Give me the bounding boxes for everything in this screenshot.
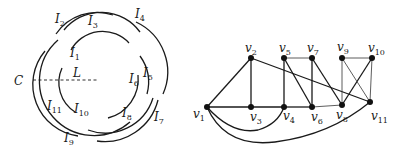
edge-v2-v11 (251, 58, 370, 102)
label-v8: v8 (336, 108, 348, 124)
edge-v1-v2 (207, 58, 251, 107)
label-I6: I6 (128, 72, 139, 88)
label-I7: I7 (153, 110, 164, 126)
arc-I8 (88, 98, 153, 133)
edge-v7-v8 (312, 58, 342, 105)
label-I9: I9 (63, 131, 74, 147)
vertex-labels: v1 v2 v3 v4 v5 v6 v7 v8 v9 v10 v11 (193, 40, 388, 126)
label-v10: v10 (368, 41, 385, 57)
label-v5: v5 (279, 41, 291, 57)
label-I1: I1 (69, 46, 80, 62)
vertex-v11 (367, 99, 373, 105)
label-v3: v3 (250, 110, 262, 126)
vertex-v1 (204, 104, 210, 110)
label-v11: v11 (371, 109, 388, 125)
edge-v10-v11 (370, 58, 372, 102)
label-I2: I2 (54, 12, 65, 28)
arc-I11 (33, 51, 78, 136)
edge-v5-v6 (284, 58, 312, 107)
label-I3: I3 (87, 14, 98, 30)
arc-left-2 (39, 40, 130, 136)
edge-v9-v11 (342, 58, 370, 102)
label-I8: I8 (121, 106, 132, 122)
label-I11: I11 (46, 99, 62, 115)
edge-v6-v8 (312, 105, 342, 107)
arc-I1 (71, 31, 129, 50)
label-v2: v2 (245, 41, 257, 57)
label-v6: v6 (311, 110, 323, 126)
diagram-canvas: C L I1 I2 I3 I4 I5 I6 I7 I8 I9 I10 I11 (0, 0, 401, 153)
label-v4: v4 (283, 109, 295, 125)
arc-I3 (64, 12, 140, 32)
graph-edges (207, 58, 372, 143)
arc-labels: C L I1 I2 I3 I4 I5 I6 I7 I8 I9 I10 I11 (14, 7, 164, 147)
label-v7: v7 (307, 41, 319, 57)
label-I4: I4 (134, 7, 145, 23)
label-I10: I10 (73, 102, 89, 118)
label-C: C (14, 74, 23, 88)
label-I5: I5 (142, 66, 153, 82)
label-v1: v1 (193, 107, 205, 123)
label-L: L (72, 66, 81, 80)
edge-v1-v4-curve (207, 107, 284, 131)
label-v9: v9 (337, 40, 349, 56)
